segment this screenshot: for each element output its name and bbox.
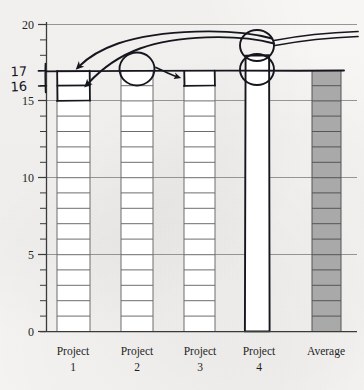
bar-chart: 20 15 10 5 0 bbox=[0, 0, 364, 390]
bar-average bbox=[312, 71, 341, 332]
y-tick-label-15: 15 bbox=[22, 94, 34, 108]
y-tick-label-20: 20 bbox=[22, 18, 34, 32]
x-label-average: Average bbox=[307, 345, 345, 358]
ink-label-16: 16 bbox=[10, 79, 27, 95]
bar-project-2 bbox=[121, 71, 153, 332]
x-label-project-2-line2: 2 bbox=[134, 361, 140, 373]
y-tick-label-10: 10 bbox=[22, 171, 34, 185]
x-label-project-4-line2: 4 bbox=[256, 361, 262, 373]
x-label-project-4-line1: Project bbox=[243, 345, 276, 358]
ink-arrow-p2-to-p3 bbox=[156, 68, 177, 77]
ink-reference-line-17 bbox=[47, 71, 345, 72]
chart-svg: 20 15 10 5 0 bbox=[0, 0, 364, 390]
x-axis-labels: Project 1 Project 2 Project 3 Project 4 … bbox=[57, 345, 345, 373]
bar-project-3 bbox=[184, 71, 215, 332]
x-label-project-3-line2: 3 bbox=[197, 361, 203, 373]
x-label-project-1-line2: 1 bbox=[70, 361, 76, 373]
y-tick-label-0: 0 bbox=[28, 325, 34, 339]
bar-project-4 bbox=[245, 55, 270, 331]
x-label-project-3-line1: Project bbox=[184, 345, 217, 358]
x-label-project-2-line1: Project bbox=[121, 345, 154, 358]
x-label-project-1-line1: Project bbox=[57, 345, 90, 358]
bar-project-1 bbox=[57, 71, 90, 332]
y-tick-label-5: 5 bbox=[28, 248, 34, 262]
ink-label-17: 17 bbox=[10, 64, 27, 80]
